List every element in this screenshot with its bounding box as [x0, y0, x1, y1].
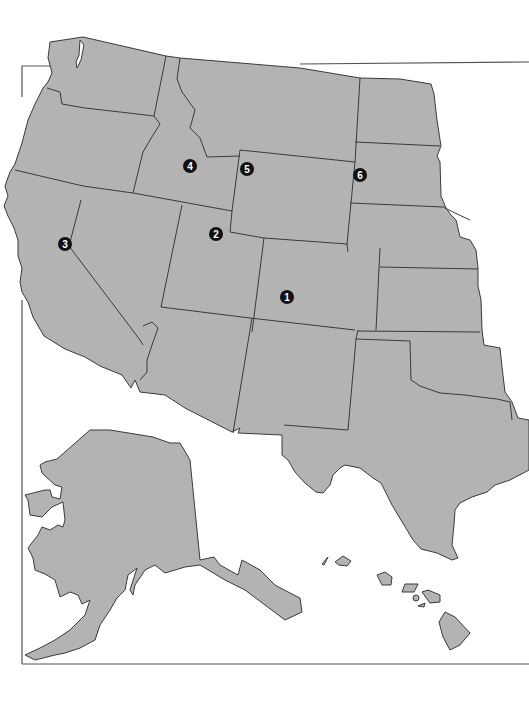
svg-text:6: 6	[357, 170, 363, 181]
marker-3[interactable]: 3	[58, 237, 72, 251]
svg-text:1: 1	[284, 292, 290, 303]
svg-text:5: 5	[244, 164, 250, 175]
svg-text:4: 4	[187, 161, 193, 172]
marker-4[interactable]: 4	[183, 159, 197, 173]
svg-text:3: 3	[62, 239, 68, 250]
marker-5[interactable]: 5	[240, 162, 254, 176]
western-us-map: 1 2 3 4 5 6	[0, 0, 529, 715]
marker-6[interactable]: 6	[353, 168, 367, 182]
hawaii-inset	[322, 556, 470, 650]
alaska-inset	[25, 430, 302, 660]
marker-1[interactable]: 1	[280, 290, 294, 304]
marker-2[interactable]: 2	[209, 227, 223, 241]
svg-text:2: 2	[213, 229, 219, 240]
